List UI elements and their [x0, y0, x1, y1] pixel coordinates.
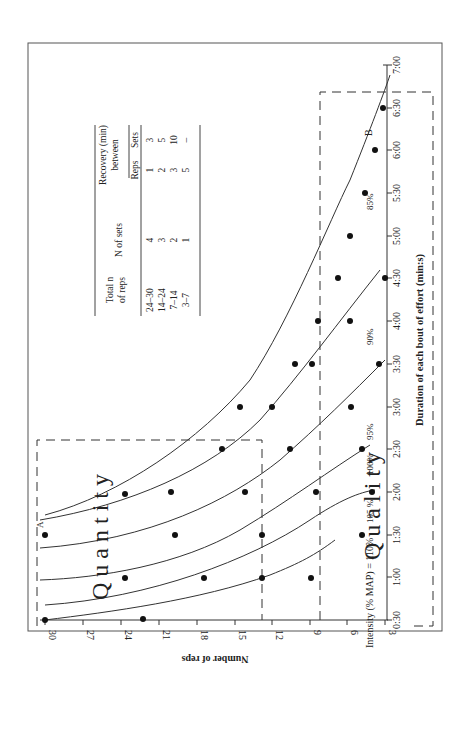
svg-text:15: 15 [237, 630, 248, 640]
label-90: 90% [365, 328, 375, 345]
svg-text:24–30: 24–30 [145, 288, 155, 312]
svg-text:5: 5 [157, 137, 167, 142]
svg-text:1: 1 [145, 167, 155, 172]
label-95: 95% [365, 423, 375, 440]
point-b-label: B [363, 129, 374, 136]
duration-axis-title: Duration of each bout of effort (min:s) [414, 253, 426, 426]
svg-text:6: 6 [349, 630, 360, 635]
svg-text:18: 18 [199, 630, 210, 640]
point-a-label: A [35, 521, 45, 528]
svg-text:6:30: 6:30 [391, 99, 402, 117]
svg-text:24: 24 [123, 630, 134, 640]
svg-text:7–14: 7–14 [169, 290, 179, 309]
duration-tick-labels: 0:30 1:00 1:30 2:00 2:30 3:00 3:30 4:00 … [391, 56, 402, 629]
svg-text:12: 12 [274, 630, 285, 640]
svg-text:5:00: 5:00 [391, 227, 402, 245]
svg-text:3: 3 [387, 630, 398, 635]
svg-text:between: between [110, 139, 120, 171]
svg-text:27: 27 [85, 630, 96, 640]
quality-label: Q u a l i t y [359, 452, 385, 560]
svg-text:of reps: of reps [117, 277, 127, 303]
svg-text:1:00: 1:00 [391, 568, 402, 586]
quantity-label: Q u a n t i t y [87, 474, 113, 600]
svg-text:Recovery (min): Recovery (min) [98, 125, 109, 185]
svg-text:21: 21 [161, 630, 172, 640]
svg-text:Total n: Total n [105, 276, 115, 303]
svg-text:2:00: 2:00 [391, 483, 402, 501]
svg-text:5:30: 5:30 [391, 184, 402, 202]
svg-text:3–7: 3–7 [181, 293, 191, 308]
svg-text:3: 3 [145, 137, 155, 142]
svg-text:2: 2 [169, 237, 179, 242]
svg-text:1:30: 1:30 [391, 526, 402, 544]
svg-text:1: 1 [181, 237, 191, 242]
svg-text:3:30: 3:30 [391, 355, 402, 373]
rotated-figure: 30 27 24 21 18 15 12 9 6 3 Number of rep… [0, 0, 465, 730]
svg-text:Reps: Reps [130, 160, 140, 179]
svg-text:3:00: 3:00 [391, 398, 402, 416]
curve-85 [45, 75, 390, 515]
svg-text:9: 9 [312, 630, 323, 635]
sets-table: Total n of reps N of sets Recovery (min)… [95, 125, 200, 316]
reps-axis-title: Number of reps [181, 654, 248, 665]
svg-text:7:00: 7:00 [391, 56, 402, 74]
svg-text:2: 2 [157, 167, 167, 172]
svg-text:4:30: 4:30 [391, 269, 402, 287]
label-85: 85% [365, 193, 375, 210]
svg-text:–: – [181, 137, 191, 143]
svg-text:10: 10 [169, 135, 179, 145]
svg-text:0:30: 0:30 [391, 611, 402, 629]
svg-text:6:00: 6:00 [391, 141, 402, 159]
svg-text:30: 30 [47, 630, 58, 640]
svg-text:3: 3 [169, 167, 179, 172]
svg-text:3: 3 [157, 237, 167, 242]
svg-text:4: 4 [145, 237, 155, 242]
svg-text:14–24: 14–24 [157, 288, 167, 312]
svg-text:2:30: 2:30 [391, 440, 402, 458]
svg-text:N of sets: N of sets [114, 223, 124, 257]
reps-ticks [45, 620, 385, 625]
svg-text:5: 5 [181, 167, 191, 172]
svg-text:Sets: Sets [130, 132, 140, 148]
svg-text:4:00: 4:00 [391, 312, 402, 330]
